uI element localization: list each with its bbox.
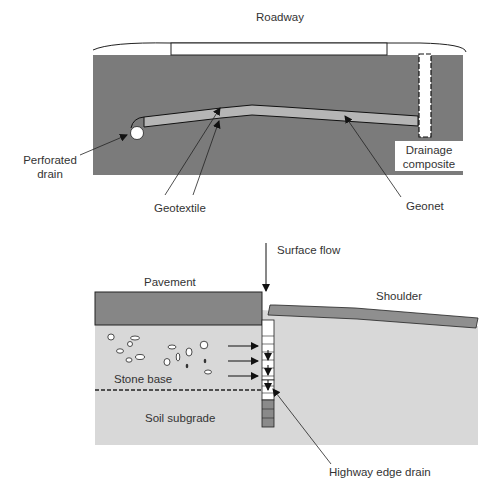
roadway-label: Roadway xyxy=(240,10,320,24)
soil-subgrade-label: Soil subgrade xyxy=(145,411,215,425)
roadway-pavement xyxy=(171,43,387,55)
perforated-drain-pipe xyxy=(131,127,144,140)
drainage-composite-line1: Drainage xyxy=(395,143,463,157)
highway-edge-drain-column xyxy=(262,320,274,427)
stone-base-label: Stone base xyxy=(114,372,172,386)
perforated-drain-line2: drain xyxy=(18,167,82,181)
highway-edge-drain-label: Highway edge drain xyxy=(329,465,431,478)
drainage-composite-line2: composite xyxy=(395,157,463,171)
top-cross-section xyxy=(80,43,466,197)
pavement-label: Pavement xyxy=(144,275,196,289)
pavement-slab xyxy=(95,292,262,325)
geotextile-label: Geotextile xyxy=(154,201,206,215)
surface-flow-label: Surface flow xyxy=(277,243,340,257)
drainage-composite-label: Drainage composite xyxy=(395,143,463,171)
shoulder-label: Shoulder xyxy=(376,289,422,303)
drainage-composite-strip xyxy=(419,54,431,137)
perforated-drain-label: Perforated drain xyxy=(18,153,82,181)
perforated-drain-line1: Perforated xyxy=(18,153,82,167)
geonet-label: Geonet xyxy=(406,199,444,213)
diagram-canvas xyxy=(0,0,496,478)
